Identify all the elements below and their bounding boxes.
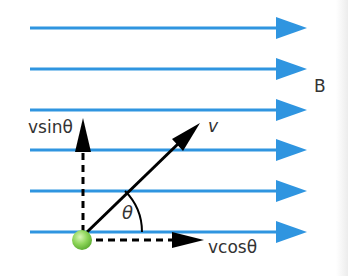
- field-label-b: B: [314, 76, 326, 96]
- charged-particle: [72, 230, 92, 250]
- field-line-2: [30, 58, 307, 80]
- vertical-component-arrow: [75, 118, 91, 232]
- horizontal-component-label: vcosθ: [208, 237, 257, 257]
- vertical-component-label: vsinθ: [28, 117, 73, 137]
- field-line-4: [30, 139, 307, 161]
- velocity-label: v: [208, 116, 219, 136]
- angle-label: θ: [122, 202, 133, 223]
- velocity-arrow: [85, 123, 200, 234]
- field-line-1: [30, 17, 307, 39]
- field-line-5: [30, 180, 307, 202]
- magnetic-field-diagram: B v vsinθ vcosθ θ: [0, 0, 348, 276]
- horizontal-component-arrow: [96, 232, 204, 248]
